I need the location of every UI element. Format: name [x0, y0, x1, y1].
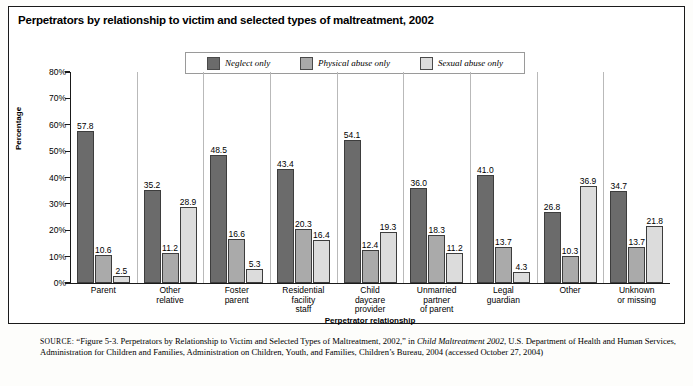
x-tick-label: Legalguardian: [470, 286, 537, 315]
y-tick-label: 0%: [6, 278, 66, 288]
bar[interactable]: 13.7: [495, 247, 512, 283]
y-tick-label: 80%: [6, 67, 66, 77]
x-tick-label: Other: [537, 286, 604, 315]
bar-group: 43.420.316.4: [270, 72, 337, 283]
y-tick-label: 20%: [6, 225, 66, 235]
bar-group: 54.112.419.3: [337, 72, 404, 283]
bar-value-label: 12.4: [362, 240, 379, 250]
group-separator: [537, 72, 538, 283]
bar[interactable]: 11.2: [446, 253, 463, 283]
y-tick-label: 60%: [6, 120, 66, 130]
bar[interactable]: 34.7: [610, 191, 627, 283]
source-text-1: “Figure 5-3. Perpetrators by Relationshi…: [74, 336, 417, 346]
bar[interactable]: 12.4: [362, 250, 379, 283]
bar-set: 43.420.316.4: [270, 72, 337, 283]
bar[interactable]: 43.4: [277, 169, 294, 283]
bar-set: 48.516.65.3: [203, 72, 270, 283]
bar-value-label: 4.3: [515, 262, 527, 272]
group-separator: [603, 72, 604, 283]
bar-value-label: 11.2: [162, 243, 178, 253]
source-note: SOURCE: “Figure 5-3. Perpetrators by Rel…: [40, 336, 688, 359]
bar-set: 26.810.336.9: [537, 72, 604, 283]
y-tick-label: 40%: [6, 173, 66, 183]
bar[interactable]: 35.2: [144, 190, 161, 283]
bar-value-label: 13.7: [628, 237, 645, 247]
bar[interactable]: 57.8: [77, 131, 94, 283]
x-tick-label: Parent: [70, 286, 137, 315]
bar-set: 54.112.419.3: [337, 72, 404, 283]
group-separator: [337, 72, 338, 283]
bar-set: 41.013.74.3: [470, 72, 537, 283]
bar[interactable]: 16.4: [313, 240, 330, 283]
y-tick-label: 30%: [6, 199, 66, 209]
group-separator: [270, 72, 271, 283]
group-separator: [470, 72, 471, 283]
bar-value-label: 19.3: [380, 222, 397, 232]
bar-value-label: 57.8: [77, 121, 94, 131]
bar-group: 41.013.74.3: [470, 72, 537, 283]
bar[interactable]: 36.9: [580, 186, 597, 283]
bar-value-label: 18.3: [428, 225, 445, 235]
x-tick-label: Unmarriedpartnerof parent: [403, 286, 470, 315]
bar[interactable]: 41.0: [477, 175, 494, 283]
bar[interactable]: 4.3: [513, 272, 530, 283]
bar-set: 57.810.62.5: [70, 72, 137, 283]
x-tick-label: Residentialfacilitystaff: [270, 286, 337, 315]
bar-value-label: 2.5: [115, 266, 127, 276]
bar-value-label: 43.4: [277, 159, 294, 169]
bar[interactable]: 19.3: [380, 232, 397, 283]
bar[interactable]: 54.1: [344, 140, 361, 283]
y-tick-label: 50%: [6, 146, 66, 156]
bar-group: 34.713.721.8: [603, 72, 670, 283]
bar-value-label: 54.1: [344, 130, 361, 140]
bar[interactable]: 28.9: [180, 207, 197, 283]
bar[interactable]: 16.6: [228, 239, 245, 283]
x-axis-label: Perpetrator relationship: [70, 316, 670, 325]
bar[interactable]: 48.5: [210, 155, 227, 283]
x-tick-label: Unknownor missing: [603, 286, 670, 315]
bar-groups: 57.810.62.535.211.228.948.516.65.343.420…: [70, 72, 670, 283]
bar-value-label: 11.2: [447, 243, 463, 253]
bar[interactable]: 11.2: [162, 253, 179, 283]
bar-value-label: 10.3: [562, 246, 579, 256]
bar-value-label: 20.3: [295, 219, 312, 229]
bar[interactable]: 26.8: [544, 212, 561, 283]
bar[interactable]: 36.0: [410, 188, 427, 283]
group-separator: [403, 72, 404, 283]
group-separator: [137, 72, 138, 283]
y-tick-label: 70%: [6, 93, 66, 103]
bar-value-label: 5.3: [249, 259, 261, 269]
source-keyword: SOURCE:: [40, 337, 74, 346]
bar[interactable]: 13.7: [628, 247, 645, 283]
bar-chart: Percentage 0%10%20%30%40%50%60%70%80% 57…: [0, 0, 693, 330]
bar-value-label: 21.8: [646, 216, 663, 226]
bar[interactable]: 10.6: [95, 255, 112, 283]
bar[interactable]: 20.3: [295, 229, 312, 283]
bar-group: 36.018.311.2: [403, 72, 470, 283]
bar[interactable]: 21.8: [646, 226, 663, 283]
bar[interactable]: 18.3: [428, 235, 445, 283]
bar-value-label: 13.7: [495, 237, 512, 247]
bar-set: 36.018.311.2: [403, 72, 470, 283]
bar-group: 35.211.228.9: [137, 72, 204, 283]
x-tick-label: Otherrelative: [137, 286, 204, 315]
bar-value-label: 28.9: [180, 197, 197, 207]
bar[interactable]: 10.3: [562, 256, 579, 283]
plot-area: 0%10%20%30%40%50%60%70%80% 57.810.62.535…: [70, 72, 670, 284]
bar[interactable]: 5.3: [246, 269, 263, 283]
bar-value-label: 35.2: [144, 180, 161, 190]
bar-value-label: 36.9: [580, 176, 597, 186]
source-publication-title: Child Maltreatment 2002: [417, 336, 504, 346]
bar-set: 34.713.721.8: [603, 72, 670, 283]
bar-group: 48.516.65.3: [203, 72, 270, 283]
bar-value-label: 16.6: [228, 229, 245, 239]
bar-value-label: 34.7: [610, 181, 627, 191]
y-tick-label: 10%: [6, 252, 66, 262]
bar-value-label: 48.5: [210, 145, 227, 155]
bar[interactable]: 2.5: [113, 276, 130, 283]
group-separator: [203, 72, 204, 283]
bar-value-label: 10.6: [95, 245, 112, 255]
bar-set: 35.211.228.9: [137, 72, 204, 283]
bar-group: 26.810.336.9: [537, 72, 604, 283]
bar-value-label: 41.0: [477, 165, 494, 175]
